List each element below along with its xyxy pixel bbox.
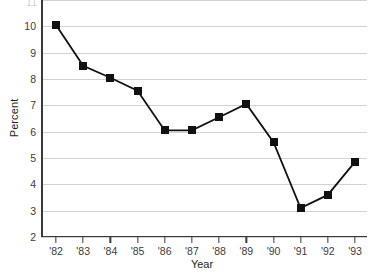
data-point-marker: [188, 126, 196, 134]
x-axis-tick-mark: [246, 237, 247, 243]
data-point-marker: [161, 126, 169, 134]
x-axis-tick-mark: [110, 237, 111, 243]
x-axis-tick-mark: [137, 237, 138, 243]
x-axis-tick-mark: [164, 237, 165, 243]
y-axis-tick-label: 10: [6, 20, 36, 32]
data-point-marker: [242, 100, 250, 108]
y-axis-tick-label: 5: [6, 152, 36, 164]
data-point-marker: [351, 158, 359, 166]
y-axis-tick-label: 2: [6, 231, 36, 243]
x-axis-tick-mark: [83, 237, 84, 243]
data-point-marker: [215, 113, 223, 121]
y-axis-tick-label: 4: [6, 178, 36, 190]
x-axis-tick-mark: [55, 237, 56, 243]
y-axis-tick-label: 7: [6, 99, 36, 111]
x-axis-tick-mark: [354, 237, 355, 243]
y-axis-tick-label: 9: [6, 47, 36, 59]
data-point-marker: [79, 62, 87, 70]
data-point-marker: [52, 21, 60, 29]
y-axis-tick-labels: 1098765432: [0, 0, 36, 237]
data-point-marker: [134, 87, 142, 95]
data-point-marker: [297, 204, 305, 212]
x-axis-tick-mark: [273, 237, 274, 243]
x-axis-tick-mark: [300, 237, 301, 243]
x-axis-tick-mark: [191, 237, 192, 243]
y-axis-tick-label-top: 11: [11, 0, 37, 8]
data-point-marker: [270, 138, 278, 146]
x-axis-title: Year: [36, 258, 368, 270]
data-point-marker: [324, 191, 332, 199]
y-axis-tick-label: 3: [6, 205, 36, 217]
x-axis-tick-mark: [327, 237, 328, 243]
y-axis-tick-label: 6: [6, 126, 36, 138]
plot-area: '82'83'84'85'86'87'88'89'90'91'92'93: [41, 0, 367, 237]
x-axis-tick-mark: [218, 237, 219, 243]
line-chart: Percent 1098765432 11 '82'83'84'85'86'87…: [0, 0, 376, 279]
x-axis-title-text: Year: [191, 258, 213, 270]
x-axis-tick-label: '93: [335, 245, 375, 257]
data-point-marker: [106, 74, 114, 82]
y-axis-tick-label: 8: [6, 73, 36, 85]
series-line: [41, 0, 367, 237]
